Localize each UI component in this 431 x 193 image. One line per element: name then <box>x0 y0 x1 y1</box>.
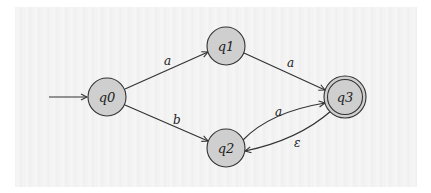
state-label-q2: q2 <box>218 141 235 156</box>
automaton-canvas: a b a a ε q0 q1 q2 q3 <box>0 0 431 193</box>
edge-q2-q3 <box>243 103 325 140</box>
edge-label-q2-q3: a <box>275 105 282 119</box>
edge-q3-q2 <box>245 111 331 151</box>
state-label-q1: q1 <box>218 39 235 54</box>
edge-label-q0-q1: a <box>164 54 171 68</box>
edge-label-q1-q3: a <box>287 56 294 70</box>
state-label-q3: q3 <box>337 90 354 105</box>
state-label-q0: q0 <box>99 90 116 105</box>
edge-q0-q2 <box>125 105 208 141</box>
state-q1: q1 <box>207 27 245 65</box>
state-q0: q0 <box>88 78 126 116</box>
edge-label-q3-q2: ε <box>294 136 300 150</box>
state-q2: q2 <box>207 129 245 167</box>
edge-label-q0-q2: b <box>173 113 181 127</box>
edge-q1-q3 <box>244 53 325 90</box>
automaton-diagram: a b a a ε q0 q1 q2 q3 <box>0 0 431 193</box>
state-q3-accepting: q3 <box>324 76 366 118</box>
